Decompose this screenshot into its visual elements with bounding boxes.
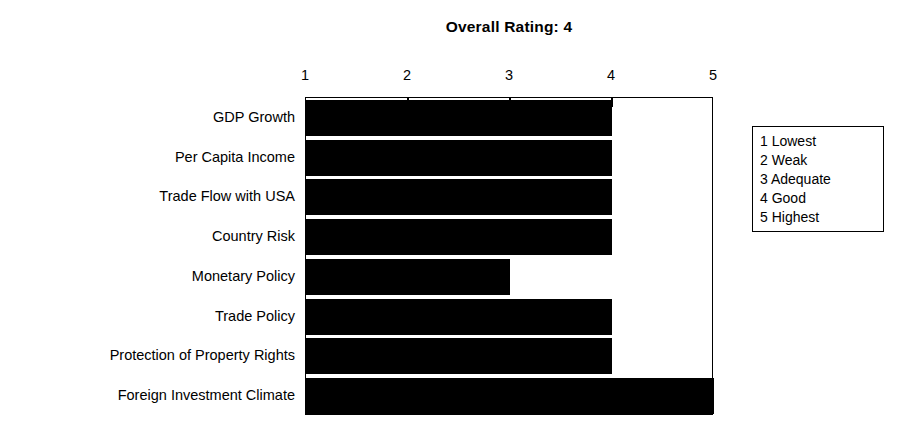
- bar-row: [306, 140, 714, 176]
- category-label-4: Monetary Policy: [20, 267, 295, 285]
- x-tick-label-4: 4: [607, 66, 615, 84]
- x-tick-mark-4: [611, 98, 612, 107]
- bar-row: [306, 378, 714, 414]
- x-tick-mark-2: [407, 98, 408, 107]
- bar-6: [306, 338, 612, 374]
- category-label-3: Country Risk: [20, 227, 295, 245]
- category-label-6: Protection of Property Rights: [20, 346, 295, 364]
- bar-row: [306, 299, 714, 335]
- chart-container: Overall Rating: 4 12345 GDP GrowthPer Ca…: [0, 0, 915, 446]
- category-label-1: Per Capita Income: [20, 148, 295, 166]
- category-labels: GDP GrowthPer Capita IncomeTrade Flow wi…: [20, 97, 295, 415]
- legend: 1 Lowest2 Weak3 Adequate4 Good5 Highest: [752, 126, 884, 232]
- x-tick-label-2: 2: [403, 66, 411, 84]
- x-tick-label-1: 1: [301, 66, 309, 84]
- bar-row: [306, 259, 714, 295]
- x-tick-label-5: 5: [709, 66, 717, 84]
- category-label-5: Trade Policy: [20, 307, 295, 325]
- x-tick-label-3: 3: [505, 66, 513, 84]
- bar-0: [306, 100, 612, 136]
- bar-row: [306, 338, 714, 374]
- bar-2: [306, 179, 612, 215]
- legend-item-2: 2 Weak: [760, 151, 883, 170]
- x-tick-mark-3: [509, 98, 510, 107]
- bar-7: [306, 378, 714, 414]
- bar-5: [306, 299, 612, 335]
- category-label-0: GDP Growth: [20, 108, 295, 126]
- category-label-7: Foreign Investment Climate: [20, 386, 295, 404]
- bar-4: [306, 259, 510, 295]
- legend-item-5: 5 Highest: [760, 208, 883, 227]
- legend-item-4: 4 Good: [760, 189, 883, 208]
- bars-layer: [306, 98, 712, 414]
- chart-title: Overall Rating: 4: [305, 18, 713, 36]
- plot-area: [305, 97, 713, 415]
- legend-item-1: 1 Lowest: [760, 132, 883, 151]
- legend-item-3: 3 Adequate: [760, 170, 883, 189]
- bar-row: [306, 219, 714, 255]
- bar-3: [306, 219, 612, 255]
- category-label-2: Trade Flow with USA: [20, 187, 295, 205]
- x-axis-tick-labels: 12345: [305, 66, 713, 88]
- bar-row: [306, 179, 714, 215]
- bar-1: [306, 140, 612, 176]
